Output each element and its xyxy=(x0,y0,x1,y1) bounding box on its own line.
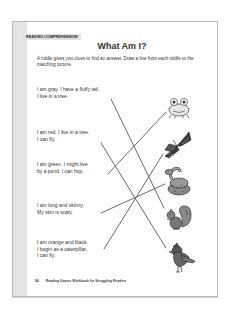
match-line-cardinal xyxy=(101,143,166,248)
worksheet-page: Reading Comprehension What Am I? A riddl… xyxy=(12,21,218,297)
match-line-frog xyxy=(108,112,166,174)
squirrel-icon xyxy=(164,203,194,233)
frog-icon xyxy=(166,97,192,119)
page-number: 86 xyxy=(35,279,39,283)
cardinal-icon xyxy=(167,241,197,275)
butterfly-icon xyxy=(163,130,193,160)
match-line-squirrel xyxy=(111,99,164,208)
match-line-snake xyxy=(101,184,165,213)
snake-icon xyxy=(164,163,192,197)
book-title: Reading Games Workbook for Struggling Re… xyxy=(46,279,127,283)
page-footer: 86 Reading Games Workbook for Struggling… xyxy=(35,279,127,283)
